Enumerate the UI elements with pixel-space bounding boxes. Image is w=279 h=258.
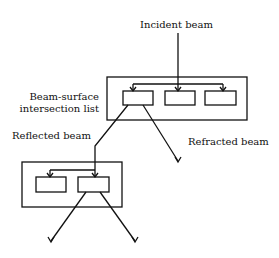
arrow-head-icon	[175, 157, 181, 162]
top-list-entry-1	[123, 91, 153, 105]
outgoing-beam-left	[51, 192, 86, 241]
top-list-entry-3	[205, 91, 236, 105]
reflected-beam-line	[95, 105, 128, 176]
list-label-line2: intersection list	[2, 103, 99, 115]
reflected-list-entry-1	[36, 177, 66, 192]
refracted-beam-line	[143, 105, 178, 161]
reflected-beam-label: Reflected beam	[12, 130, 91, 142]
arrow-head-icon	[132, 237, 138, 242]
top-list-entry-2	[165, 91, 195, 105]
arrow-head-icon	[48, 237, 54, 242]
refracted-beam-label: Refracted beam	[188, 136, 269, 148]
beam-tree-diagram: Incident beam Beam-surface intersection …	[0, 0, 279, 258]
diagram-graphics	[0, 0, 279, 258]
reflected-list-container	[22, 162, 122, 207]
outgoing-beam-right	[100, 192, 135, 241]
reflected-list-entry-2	[78, 177, 109, 192]
list-label-line1: Beam-surface	[2, 91, 99, 103]
incident-beam-label: Incident beam	[140, 19, 213, 31]
